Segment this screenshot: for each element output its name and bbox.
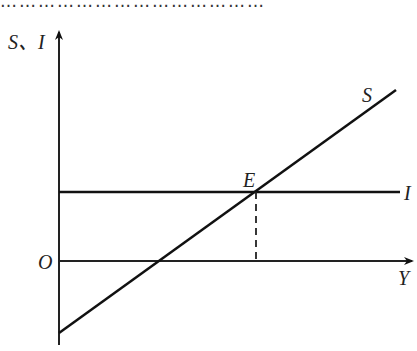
equilibrium-label: E: [243, 170, 255, 190]
saving-investment-diagram: [0, 0, 417, 351]
investment-curve-label: I: [404, 183, 411, 203]
saving-line: [59, 90, 396, 333]
saving-curve-label: S: [362, 85, 372, 105]
x-axis-label: Y: [398, 268, 409, 288]
origin-label: O: [38, 252, 52, 272]
y-axis-label: S、I: [8, 32, 45, 52]
